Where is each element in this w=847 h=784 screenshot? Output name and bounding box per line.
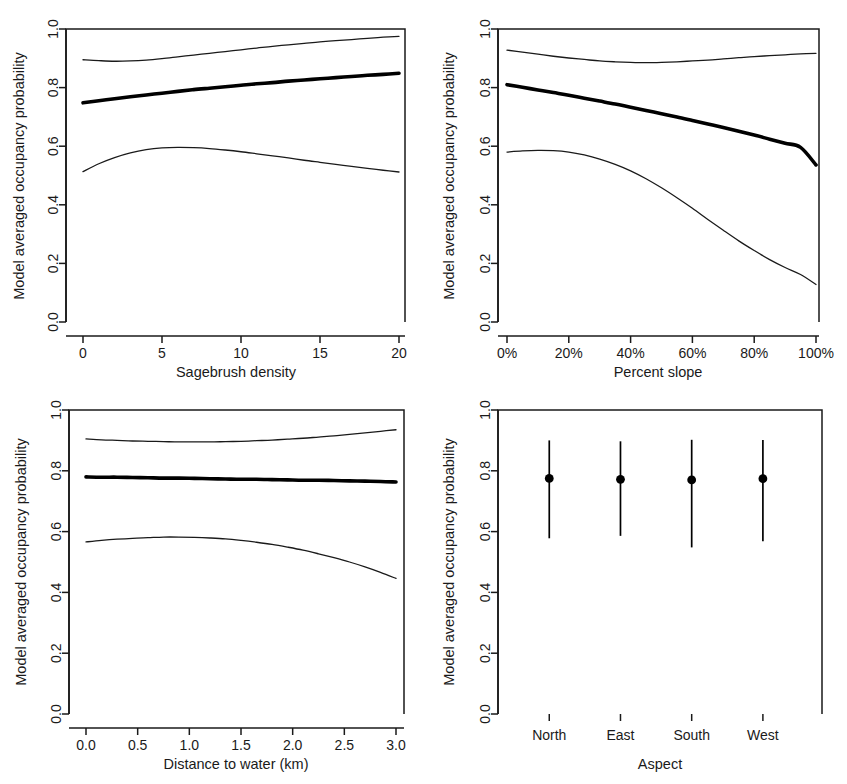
y-tick-label: 0.2 xyxy=(477,253,493,273)
y-axis-title: Model averaged occupancy probability xyxy=(441,52,457,300)
mean-curve xyxy=(86,477,396,482)
plot-box xyxy=(66,29,405,322)
y-tick-label: 0.2 xyxy=(477,643,493,663)
y-tick-label: 0.8 xyxy=(45,78,61,98)
x-tick-label: 3.0 xyxy=(386,737,406,753)
y-tick-label: 0.2 xyxy=(48,643,64,663)
estimate-point xyxy=(758,474,767,483)
panel-distance-to-water-svg: 0.00.20.40.60.81.0 0.00.51.01.52.02.53.0… xyxy=(0,392,423,784)
curve-group xyxy=(507,50,816,284)
x-tick-marks xyxy=(83,336,399,343)
y-tick-marks xyxy=(491,410,498,714)
x-tick-marks xyxy=(507,336,816,343)
estimate-point xyxy=(687,476,696,485)
x-tick-label: 1.0 xyxy=(180,737,200,753)
confidence-curve xyxy=(507,50,816,63)
y-tick-labels: 0.00.20.40.60.81.0 xyxy=(45,19,61,332)
category-label: East xyxy=(606,727,634,743)
x-tick-label: 10 xyxy=(233,345,249,361)
y-tick-marks xyxy=(62,410,69,714)
estimate-point xyxy=(616,475,625,484)
y-axis-title: Model averaged occupancy probability xyxy=(441,438,457,686)
y-tick-labels: 0.00.20.40.60.81.0 xyxy=(48,400,64,724)
panel-distance-to-water: 0.00.20.40.60.81.0 0.00.51.01.52.02.53.0… xyxy=(0,392,423,784)
y-tick-label: 0.6 xyxy=(48,522,64,542)
x-tick-label: 80% xyxy=(740,345,768,361)
x-tick-label: 20 xyxy=(391,345,407,361)
x-axis-title: Sagebrush density xyxy=(176,364,297,380)
x-tick-label: 5 xyxy=(158,345,166,361)
panel-aspect-svg: 0.00.20.40.60.81.0 NorthEastSouthWest As… xyxy=(424,392,847,784)
x-axis-title: Percent slope xyxy=(614,364,703,380)
category-labels: NorthEastSouthWest xyxy=(532,727,779,743)
plot-box xyxy=(498,29,819,322)
y-tick-label: 1.0 xyxy=(48,400,64,420)
mean-curve xyxy=(507,85,816,165)
y-tick-label: 0.0 xyxy=(477,704,493,724)
confidence-curve xyxy=(86,430,396,442)
x-tick-label: 1.5 xyxy=(231,737,251,753)
confidence-curve xyxy=(86,537,396,578)
y-tick-label: 0.0 xyxy=(477,312,493,332)
curve-group xyxy=(83,36,399,172)
x-tick-labels: 05101520 xyxy=(79,345,407,361)
x-tick-label: 2.0 xyxy=(283,737,303,753)
y-axis-title: Model averaged occupancy probability xyxy=(13,438,29,686)
x-tick-marks xyxy=(549,714,763,721)
x-tick-label: 100% xyxy=(798,345,834,361)
y-tick-label: 0.0 xyxy=(48,704,64,724)
x-tick-label: 15 xyxy=(312,345,328,361)
x-tick-labels: 0.00.51.01.52.02.53.0 xyxy=(76,737,406,753)
y-tick-marks xyxy=(491,29,498,322)
error-bar-group xyxy=(545,440,767,548)
y-tick-labels: 0.00.20.40.60.81.0 xyxy=(477,400,493,724)
panel-percent-slope-svg: 0.00.20.40.60.81.0 0%20%40%60%80%100% Pe… xyxy=(424,0,847,392)
y-tick-marks xyxy=(59,29,66,322)
y-tick-label: 0.6 xyxy=(477,136,493,156)
panel-sagebrush-density-svg: 0.00.20.40.60.81.0 05101520 Sagebrush de… xyxy=(0,0,423,392)
x-tick-label: 60% xyxy=(678,345,706,361)
x-tick-labels: 0%20%40%60%80%100% xyxy=(497,345,834,361)
confidence-curve xyxy=(83,147,399,172)
plot-box xyxy=(498,410,822,714)
occupancy-probability-figure: 0.00.20.40.60.81.0 05101520 Sagebrush de… xyxy=(0,0,847,784)
x-tick-label: 2.5 xyxy=(335,737,355,753)
y-tick-label: 0.6 xyxy=(45,136,61,156)
category-label: North xyxy=(532,727,566,743)
x-tick-label: 0.0 xyxy=(76,737,96,753)
category-label: West xyxy=(747,727,779,743)
y-tick-label: 1.0 xyxy=(477,19,493,39)
y-axis-title: Model averaged occupancy probability xyxy=(11,52,27,300)
y-tick-label: 0.2 xyxy=(45,253,61,273)
y-tick-label: 0.4 xyxy=(477,582,493,602)
x-tick-label: 0% xyxy=(497,345,517,361)
y-tick-label: 1.0 xyxy=(45,19,61,39)
y-tick-label: 0.8 xyxy=(48,461,64,481)
y-tick-labels: 0.00.20.40.60.81.0 xyxy=(477,19,493,332)
plot-box xyxy=(69,410,404,714)
y-tick-label: 0.8 xyxy=(477,78,493,98)
x-axis-title: Distance to water (km) xyxy=(163,756,308,772)
panel-percent-slope: 0.00.20.40.60.81.0 0%20%40%60%80%100% Pe… xyxy=(424,0,847,392)
estimate-point xyxy=(545,474,554,483)
y-tick-label: 0.4 xyxy=(48,582,64,602)
y-tick-label: 0.4 xyxy=(477,195,493,215)
y-tick-label: 0.6 xyxy=(477,522,493,542)
x-axis-title: Aspect xyxy=(638,756,682,772)
curve-group xyxy=(86,430,396,579)
x-tick-label: 20% xyxy=(555,345,583,361)
x-tick-marks xyxy=(86,728,396,735)
category-label: South xyxy=(673,727,710,743)
panel-sagebrush-density: 0.00.20.40.60.81.0 05101520 Sagebrush de… xyxy=(0,0,423,392)
y-tick-label: 0.4 xyxy=(45,195,61,215)
panel-aspect: 0.00.20.40.60.81.0 NorthEastSouthWest As… xyxy=(424,392,847,784)
confidence-curve xyxy=(507,150,816,284)
y-tick-label: 0.8 xyxy=(477,461,493,481)
x-tick-label: 0.5 xyxy=(128,737,148,753)
x-tick-label: 0 xyxy=(79,345,87,361)
mean-curve xyxy=(83,73,399,103)
confidence-curve xyxy=(83,36,399,61)
y-tick-label: 1.0 xyxy=(477,400,493,420)
y-tick-label: 0.0 xyxy=(45,312,61,332)
x-tick-label: 40% xyxy=(617,345,645,361)
